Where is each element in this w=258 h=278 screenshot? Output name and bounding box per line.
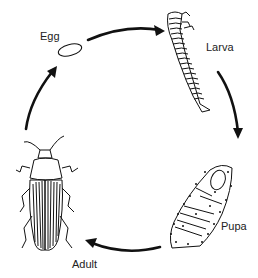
arrow-adult-to-egg xyxy=(26,66,57,129)
life-cycle-diagram: Egg Larva Pupa Adult xyxy=(0,0,258,278)
egg-illustration xyxy=(57,42,83,59)
adult-beetle-illustration xyxy=(16,136,78,250)
arrow-larva-to-pupa xyxy=(218,72,243,139)
label-larva: Larva xyxy=(206,41,234,53)
label-egg: Egg xyxy=(40,30,60,42)
arrow-pupa-to-adult xyxy=(85,238,160,251)
label-pupa: Pupa xyxy=(221,220,247,232)
larva-illustration xyxy=(168,12,211,112)
pupa-illustration xyxy=(170,165,232,248)
arrow-egg-to-larva xyxy=(88,25,165,40)
label-adult: Adult xyxy=(72,258,97,270)
